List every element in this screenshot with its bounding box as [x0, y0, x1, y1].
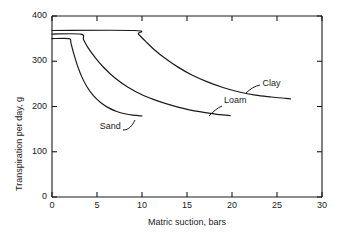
- series-curve-loam: [52, 34, 230, 116]
- y-tick-label: 100: [32, 147, 47, 156]
- y-axis-title: Transpiration per day, g: [14, 97, 24, 191]
- y-tick-label: 300: [32, 56, 47, 65]
- y-tick-label: 0: [42, 192, 47, 201]
- series-curve-sand: [52, 38, 142, 116]
- x-tick-label: 15: [175, 201, 199, 210]
- x-tick-label: 10: [130, 201, 154, 210]
- sand-leader-line: [123, 120, 135, 130]
- y-tick-label: 200: [32, 102, 47, 111]
- series-label-loam: Loam: [224, 95, 247, 105]
- series-label-clay: Clay: [263, 78, 281, 88]
- series-label-sand: Sand: [100, 121, 121, 131]
- data-series-group: [52, 30, 291, 116]
- x-tick-label: 30: [310, 201, 334, 210]
- x-axis-title: Matric suction, bars: [17, 217, 340, 227]
- y-tick-label: 400: [32, 11, 47, 20]
- x-tick-label: 20: [220, 201, 244, 210]
- clay-leader-line: [246, 85, 260, 93]
- x-tick-label: 5: [85, 201, 109, 210]
- axis-tick-marks: [52, 16, 322, 197]
- transpiration-chart-figure: 0100200300400 051015202530 Transpiration…: [0, 0, 340, 236]
- x-tick-label: 25: [265, 201, 289, 210]
- plot-frame: [52, 16, 322, 197]
- x-tick-label: 0: [40, 201, 64, 210]
